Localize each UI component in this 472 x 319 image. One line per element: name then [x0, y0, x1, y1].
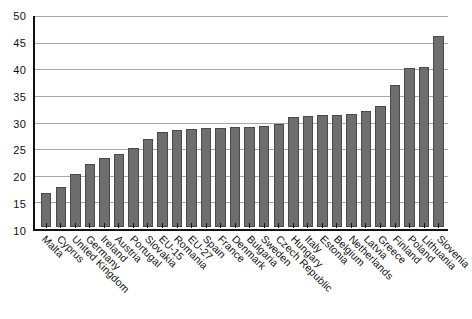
category-slot: Slovakia — [139, 234, 154, 319]
bar-slot — [112, 16, 127, 227]
category-slot: United Kingdom — [66, 234, 81, 319]
category-slot: Netherlands — [344, 234, 359, 319]
bar-slot — [257, 16, 272, 227]
x-axis-tick — [264, 223, 265, 228]
bar-slot — [184, 16, 199, 227]
category-slot: Bulgaria — [242, 234, 257, 319]
bar-slot — [431, 16, 446, 227]
bar[interactable] — [361, 111, 371, 227]
bar[interactable] — [41, 193, 51, 227]
category-slot: Malta — [37, 234, 52, 319]
bar[interactable] — [157, 132, 167, 227]
x-axis-tick — [278, 223, 279, 228]
bar-slot — [344, 16, 359, 227]
x-axis-tick — [409, 223, 410, 228]
bar[interactable] — [404, 68, 414, 227]
x-axis-tick — [395, 223, 396, 228]
y-axis-tick-label: 25 — [13, 144, 26, 156]
bar-slot — [286, 16, 301, 227]
bar-slot — [301, 16, 316, 227]
category-slot: Slovenia — [431, 234, 446, 319]
bar-slot — [170, 16, 185, 227]
bar[interactable] — [390, 85, 400, 227]
x-axis-tick — [351, 223, 352, 228]
bar[interactable] — [433, 36, 443, 227]
bar[interactable] — [288, 117, 298, 227]
category-slot: Germany — [81, 234, 96, 319]
bar[interactable] — [186, 129, 196, 227]
x-axis-tick — [60, 223, 61, 228]
bar[interactable] — [99, 158, 109, 227]
bar-slot — [155, 16, 170, 227]
category-slot: Spain — [198, 234, 213, 319]
bar-slot — [199, 16, 214, 227]
x-axis-tick — [206, 223, 207, 228]
bar[interactable] — [215, 128, 225, 227]
category-slot: Poland — [402, 234, 417, 319]
bar-slot — [417, 16, 432, 227]
category-slot: Denmark — [227, 234, 242, 319]
category-slot: Finland — [388, 234, 403, 319]
bar[interactable] — [317, 115, 327, 227]
bar[interactable] — [274, 124, 284, 227]
bar[interactable] — [143, 139, 153, 227]
category-slot: Greece — [373, 234, 388, 319]
category-slot: Belgium — [329, 234, 344, 319]
y-axis-tick-label: 35 — [13, 91, 26, 103]
bar-slot — [39, 16, 54, 227]
x-axis-tick — [133, 223, 134, 228]
bar-slot — [402, 16, 417, 227]
y-axis-tick-label: 20 — [13, 171, 26, 183]
bar[interactable] — [230, 127, 240, 227]
bar[interactable] — [332, 115, 342, 227]
category-slot: Ireland — [95, 234, 110, 319]
x-axis-tick — [177, 223, 178, 228]
bar[interactable] — [128, 148, 138, 227]
y-axis-tick-label: 15 — [13, 198, 26, 210]
x-axis-tick — [438, 223, 439, 228]
x-axis-category-labels: MaltaCyprusUnited KingdomGermanyIrelandA… — [35, 234, 448, 319]
category-slot: Lithuania — [417, 234, 432, 319]
x-axis-tick — [307, 223, 308, 228]
bar-slot — [141, 16, 156, 227]
x-axis-tick — [424, 223, 425, 228]
y-axis-tick-labels: 101520253035404550 — [0, 16, 31, 231]
bar-slot — [359, 16, 374, 227]
x-axis-tick — [365, 223, 366, 228]
bar[interactable] — [303, 116, 313, 227]
category-slot: Estonia — [315, 234, 330, 319]
category-slot: EU-27 — [183, 234, 198, 319]
y-axis-tick-label: 10 — [13, 225, 26, 237]
category-slot: Hungary — [285, 234, 300, 319]
category-slot: EU-15 — [154, 234, 169, 319]
bar[interactable] — [346, 114, 356, 227]
bar[interactable] — [70, 174, 80, 227]
bar[interactable] — [172, 130, 182, 227]
category-slot: Czech Republic — [271, 234, 286, 319]
bar-slot — [242, 16, 257, 227]
bar[interactable] — [114, 154, 124, 227]
category-slot: France — [212, 234, 227, 319]
category-slot: Austria — [110, 234, 125, 319]
x-axis-tick — [322, 223, 323, 228]
bar[interactable] — [419, 67, 429, 227]
bar-slot — [68, 16, 83, 227]
bar[interactable] — [56, 187, 66, 227]
bar-slot — [330, 16, 345, 227]
bar-slot — [213, 16, 228, 227]
bar[interactable] — [244, 127, 254, 227]
x-axis-tick — [46, 223, 47, 228]
x-axis-tick — [220, 223, 221, 228]
bar-series — [37, 16, 448, 227]
bar[interactable] — [201, 128, 211, 227]
y-axis-tick-label: 45 — [13, 37, 26, 49]
y-axis-tick-label: 30 — [13, 118, 26, 130]
bar[interactable] — [375, 106, 385, 227]
bar-slot — [315, 16, 330, 227]
bar[interactable] — [85, 164, 95, 227]
bar[interactable] — [259, 126, 269, 227]
bar-slot — [97, 16, 112, 227]
x-axis-tick — [75, 223, 76, 228]
x-axis-tick — [89, 223, 90, 228]
